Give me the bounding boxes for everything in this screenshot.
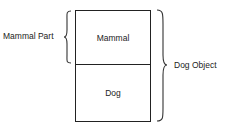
mammal-part-label: Mammal Part (3, 31, 54, 41)
left-brace-icon (64, 11, 71, 63)
dog-object-label: Dog Object (174, 60, 217, 70)
right-brace-icon (157, 10, 167, 121)
